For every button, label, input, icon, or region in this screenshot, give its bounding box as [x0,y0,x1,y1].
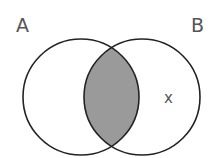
venn-diagram: A B x [0,0,217,158]
set-b-label: B [191,14,204,36]
set-a-label: A [16,14,29,36]
element-x-marker: x [164,89,173,107]
